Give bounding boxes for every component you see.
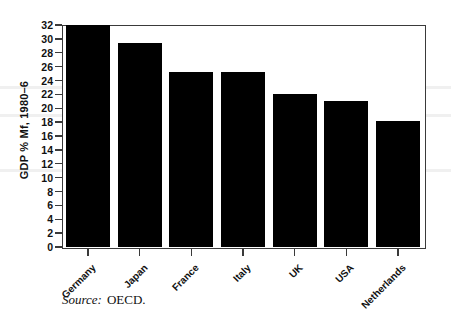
y-axis-tick [55, 205, 62, 206]
y-axis-tick-label-wrap: 30 [0, 39, 53, 40]
source-label: Source: [62, 292, 102, 307]
y-axis-tick-label: 10 [3, 173, 53, 184]
y-axis-tick-label: 4 [3, 214, 53, 225]
y-axis-tick-label: 2 [3, 228, 53, 239]
y-axis-tick [55, 149, 62, 150]
y-axis-tick-label: 0 [3, 242, 53, 253]
y-axis-tick-label: 14 [3, 145, 53, 156]
y-axis-tick [55, 191, 62, 192]
y-axis-tick-label-wrap: 16 [0, 136, 53, 137]
y-axis-tick [55, 66, 62, 67]
y-axis-tick-label: 22 [3, 89, 53, 100]
x-axis-tick [346, 248, 347, 256]
y-axis-tick-label: 6 [3, 200, 53, 211]
bar-germany[interactable] [66, 25, 110, 247]
y-axis-tick-label: 20 [3, 103, 53, 114]
bar-chart-figure: GDP % Mf, 1980–6 02468101214161820222426… [0, 0, 451, 316]
y-axis-tick-label: 30 [3, 34, 53, 45]
y-axis-tick-label-wrap: 14 [0, 150, 53, 151]
y-axis-tick-label-wrap: 22 [0, 94, 53, 95]
bar-usa[interactable] [324, 101, 368, 247]
bar-japan[interactable] [118, 43, 162, 247]
x-axis-tick [397, 248, 398, 256]
y-axis-tick-label-wrap: 8 [0, 192, 53, 193]
y-axis-tick-label-wrap: 18 [0, 122, 53, 123]
y-axis-tick-label-wrap: 28 [0, 53, 53, 54]
y-axis-tick [55, 219, 62, 220]
y-axis-tick-label-wrap: 4 [0, 219, 53, 220]
y-axis-tick-label: 24 [3, 76, 53, 87]
y-axis-tick [55, 232, 62, 233]
y-axis-tick-label-wrap: 10 [0, 178, 53, 179]
x-axis-tick [242, 248, 243, 256]
source-note: Source:OECD. [62, 292, 146, 308]
y-axis-tick [55, 52, 62, 53]
bar-netherlands[interactable] [376, 121, 420, 247]
y-axis-tick-label: 12 [3, 159, 53, 170]
y-axis-tick-label-wrap: 0 [0, 247, 53, 248]
bar-italy[interactable] [221, 72, 265, 247]
y-axis-tick [55, 94, 62, 95]
y-axis-tick-label: 32 [3, 20, 53, 31]
y-axis-tick-label: 28 [3, 48, 53, 59]
y-axis-tick-label-wrap: 24 [0, 81, 53, 82]
x-axis-tick [87, 248, 88, 256]
y-axis-tick [55, 121, 62, 122]
y-axis-tick-label-wrap: 20 [0, 108, 53, 109]
x-axis-tick [294, 248, 295, 256]
source-value: OECD. [107, 292, 146, 307]
y-axis-tick-label: 8 [3, 187, 53, 198]
y-axis-tick [55, 163, 62, 164]
bar-uk[interactable] [273, 94, 317, 247]
y-axis-tick-label-wrap: 26 [0, 67, 53, 68]
bar-france[interactable] [169, 72, 213, 247]
y-axis-tick [55, 108, 62, 109]
y-axis-tick [55, 135, 62, 136]
y-axis-tick-label-wrap: 12 [0, 164, 53, 165]
y-axis-tick-label-wrap: 2 [0, 233, 53, 234]
y-axis-tick-label: 26 [3, 62, 53, 73]
y-axis-tick-label: 18 [3, 117, 53, 128]
y-axis-tick-label-wrap: 6 [0, 205, 53, 206]
y-axis-tick [55, 80, 62, 81]
y-axis-tick-label: 16 [3, 131, 53, 142]
x-axis-tick [139, 248, 140, 256]
y-axis-tick [55, 177, 62, 178]
y-axis-tick [55, 38, 62, 39]
y-axis-tick [55, 246, 62, 247]
y-axis-tick [55, 24, 62, 25]
y-axis-tick-label-wrap: 32 [0, 25, 53, 26]
x-axis-tick [191, 248, 192, 256]
